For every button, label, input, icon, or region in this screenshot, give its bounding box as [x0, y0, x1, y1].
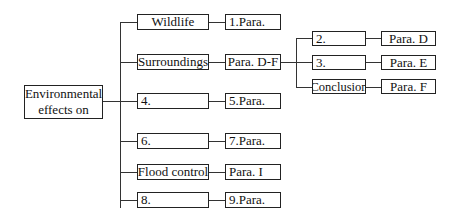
topic-box: 6.	[137, 133, 209, 149]
connector	[120, 141, 137, 142]
connector	[120, 172, 137, 173]
para-label: Para. I	[229, 165, 263, 179]
sub-topic-box: 2.	[312, 31, 366, 46]
para-box: 9.Para.	[225, 192, 281, 208]
connector	[366, 87, 381, 88]
para-label: 9.Para.	[229, 193, 265, 207]
connector	[209, 22, 225, 23]
connector	[120, 62, 137, 63]
para-box: 7.Para.	[225, 133, 281, 149]
connector	[366, 62, 381, 63]
sub-topic-box: Conclusion	[312, 79, 366, 94]
para-box: Para. I	[225, 164, 281, 180]
connector	[209, 141, 225, 142]
root-node: Environmental effects on	[24, 85, 103, 119]
para-box: 5.Para.	[225, 93, 281, 109]
topic-wildlife: Wildlife	[137, 14, 209, 30]
topic-label: 6.	[141, 134, 151, 148]
topic-label: Wildlife	[152, 15, 195, 29]
root-line-2: effects on	[38, 102, 89, 118]
topic-box: 4.	[137, 93, 209, 109]
para-box: Para. D-F	[225, 54, 281, 70]
sub-para-box: Para. E	[381, 55, 436, 70]
connector	[209, 62, 225, 63]
topic-label: 8.	[141, 193, 151, 207]
connector	[120, 22, 137, 23]
para-label: Para. D	[389, 32, 428, 46]
connector	[296, 87, 312, 88]
para-label: 1.Para.	[229, 15, 265, 29]
root-line-1: Environmental	[25, 86, 102, 102]
connector	[209, 200, 225, 201]
para-label: Para. E	[390, 56, 428, 70]
para-label: Para. F	[390, 80, 427, 94]
para-label: Para. D-F	[228, 55, 279, 69]
connector	[366, 38, 381, 39]
topic-flood-control: Flood control	[137, 164, 209, 180]
para-label: 7.Para.	[229, 134, 265, 148]
topic-label: Flood control	[138, 165, 208, 179]
sub-topic-box: 3.	[312, 55, 366, 70]
connector	[209, 172, 225, 173]
sub-para-box: Para. F	[381, 79, 436, 94]
connector	[209, 101, 225, 102]
topic-label: 4.	[141, 94, 151, 108]
topic-label: 2.	[316, 32, 326, 46]
para-box: 1.Para.	[225, 14, 281, 30]
topic-label: Conclusion	[312, 80, 366, 94]
trunk-line	[120, 22, 121, 208]
topic-label: Surroundings	[138, 55, 208, 69]
topic-box: 8.	[137, 192, 209, 208]
topic-label: 3.	[316, 56, 326, 70]
connector	[296, 38, 312, 39]
sub-trunk-line	[296, 38, 297, 87]
sub-para-box: Para. D	[381, 31, 436, 46]
topic-surroundings: Surroundings	[137, 54, 209, 70]
connector	[120, 200, 137, 201]
connector	[120, 101, 137, 102]
para-label: 5.Para.	[229, 94, 265, 108]
root-connector	[103, 101, 120, 102]
